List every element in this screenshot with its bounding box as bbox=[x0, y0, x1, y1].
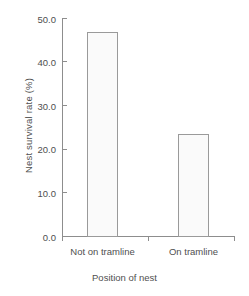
y-tick-label-1: 10.0 bbox=[38, 187, 57, 198]
y-axis-line bbox=[62, 18, 63, 237]
y-tick-label-0: 0.0 bbox=[43, 231, 56, 242]
x-axis-title: Position of nest bbox=[0, 272, 249, 283]
y-tick-label-2: 20.0 bbox=[38, 144, 57, 155]
x-category-label-0: Not on tramline bbox=[70, 246, 134, 257]
bar-not-on-tramline bbox=[87, 32, 118, 237]
y-tick-label-4: 40.0 bbox=[38, 56, 57, 67]
plot-area: 0.0 10.0 20.0 30.0 40.0 50.0 Not bbox=[62, 18, 235, 237]
y-tick-label-5: 50.0 bbox=[38, 13, 57, 24]
x-tick-right-edge bbox=[234, 237, 235, 241]
x-tick-left-edge bbox=[62, 237, 63, 241]
x-tick-center bbox=[148, 237, 149, 241]
bar-on-tramline bbox=[178, 134, 209, 237]
y-axis-title: Nest survival rate (%) bbox=[23, 46, 34, 206]
chart-figure: Nest survival rate (%) 0.0 10.0 20.0 30.… bbox=[0, 0, 249, 296]
y-tick-label-3: 30.0 bbox=[38, 100, 57, 111]
x-category-label-1: On tramline bbox=[169, 246, 218, 257]
